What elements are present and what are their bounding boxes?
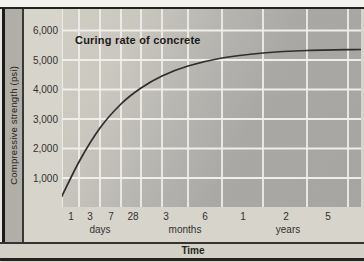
y-tick-label: 4,000 [24, 84, 58, 95]
bottom-frame-line [0, 258, 364, 261]
x-unit-label: years [266, 224, 310, 236]
y-tick-label: 6,000 [24, 25, 58, 36]
y-axis-title-band: Compressive strength (psi) [5, 9, 22, 242]
x-tick-label: 2 [274, 211, 298, 223]
y-axis-band-divider-line [22, 9, 24, 259]
x-tick-label: 1 [231, 211, 255, 223]
plot-area: Curing rate of concrete [62, 9, 361, 207]
x-tick-label: 7 [99, 211, 123, 223]
y-tick-label: 5,000 [24, 55, 58, 66]
x-tick-label: 3 [154, 211, 178, 223]
x-tick-label: 28 [121, 211, 145, 223]
x-unit-label: months [163, 224, 207, 236]
x-tick-label: 5 [316, 211, 340, 223]
curing-curve [62, 50, 361, 197]
y-tick-label: 2,000 [24, 143, 58, 154]
y-tick-label: 3,000 [24, 114, 58, 125]
x-axis-title-band: Time [0, 244, 364, 259]
top-margin-strip [0, 0, 364, 7]
y-axis-title: Compressive strength (psi) [8, 66, 19, 185]
y-tick-label: 1,000 [24, 173, 58, 184]
x-tick-label: 6 [193, 211, 217, 223]
x-unit-label: days [78, 224, 122, 236]
x-axis-title: Time [22, 244, 364, 259]
chart-title: Curing rate of concrete [75, 34, 201, 46]
concrete-curing-chart: Compressive strength (psi) 6,0005,0004,0… [0, 0, 364, 262]
